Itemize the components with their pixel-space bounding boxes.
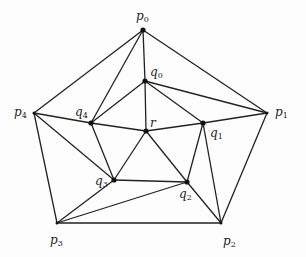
edge-q1-q2: [187, 123, 203, 182]
vertex-q0: [142, 78, 147, 83]
edge-p0-q4: [91, 30, 143, 123]
edge-q0-r: [145, 81, 146, 131]
edge-r-q3: [114, 131, 146, 180]
vertex-p4: [33, 112, 36, 115]
edge-p1-p2: [221, 113, 267, 223]
edge-p4-p0: [34, 30, 143, 113]
vertex-q3: [111, 177, 116, 182]
edge-r-q2: [146, 131, 187, 182]
vertex-q4: [88, 120, 93, 125]
vertex-p0: [140, 27, 145, 32]
edge-q4-q3: [91, 123, 114, 180]
vertex-r: [143, 128, 148, 133]
vertex-p1: [266, 112, 269, 115]
vertex-q2: [184, 179, 189, 184]
edge-q0-q4: [91, 81, 145, 123]
label-p4: p4: [14, 106, 27, 120]
edge-q3-q2: [114, 180, 187, 182]
vertex-q1: [200, 120, 205, 125]
label-r: r: [150, 117, 156, 129]
label-q4: q4: [75, 106, 88, 120]
label-q3: q3: [95, 175, 108, 189]
edge-q0-p1: [145, 81, 267, 113]
label-p2: p2: [223, 235, 236, 249]
edge-q2-p2: [187, 182, 221, 223]
label-q0: q0: [150, 66, 163, 80]
edge-p0-q0: [143, 30, 145, 81]
label-p1: p1: [275, 106, 288, 120]
edge-r-q4: [91, 123, 146, 131]
edge-q1-p1: [203, 113, 267, 123]
triangulation-diagram: p0p1p2p3p4q0q1q2q3q4r: [0, 0, 306, 257]
label-p3: p3: [50, 234, 63, 248]
label-q1: q1: [210, 127, 223, 141]
vertex-p3: [56, 222, 59, 225]
label-p0: p0: [136, 10, 149, 24]
vertex-p2: [220, 222, 223, 225]
label-q2: q2: [179, 188, 192, 202]
edge-p3-q2: [57, 182, 187, 223]
